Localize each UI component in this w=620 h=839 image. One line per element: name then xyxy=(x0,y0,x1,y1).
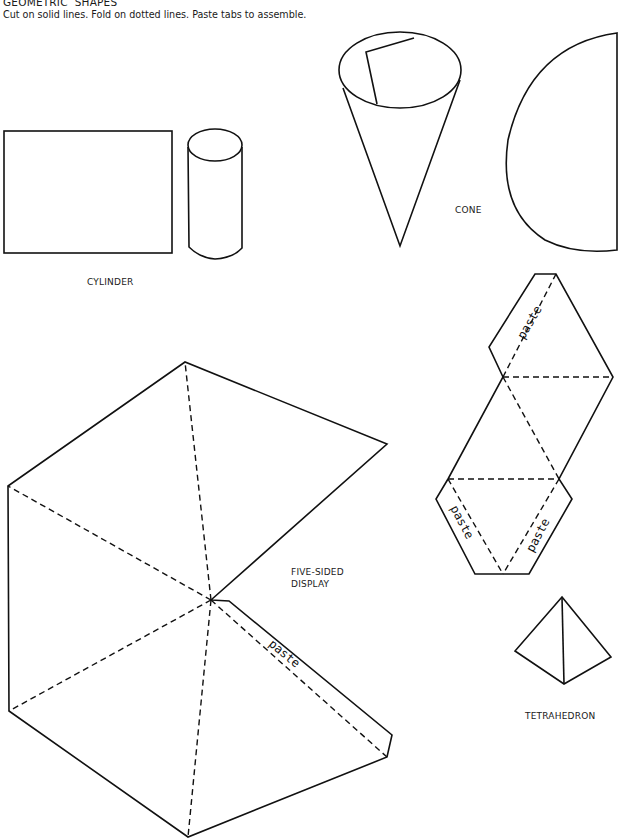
cylinder-label: CYLINDER xyxy=(87,276,134,288)
tab-label: paste xyxy=(514,303,544,341)
cylinder-illustration xyxy=(188,129,242,259)
five-sided-display-label-line1: FIVE-SIDED xyxy=(291,566,344,578)
five-sided-display-label-line2: DISPLAY xyxy=(291,578,329,590)
cone-label: CONE xyxy=(455,204,482,216)
tetrahedron-label: TETRAHEDRON xyxy=(525,710,595,722)
tetrahedron-illustration xyxy=(515,597,611,684)
tab-label: paste xyxy=(523,516,552,554)
cone-net xyxy=(506,33,617,251)
tab-label: paste xyxy=(447,503,476,541)
cone-illustration xyxy=(339,32,461,246)
five-sided-display-net: paste xyxy=(8,362,392,837)
cylinder-net xyxy=(4,131,172,253)
tetrahedron-net: paste paste paste xyxy=(436,274,613,574)
